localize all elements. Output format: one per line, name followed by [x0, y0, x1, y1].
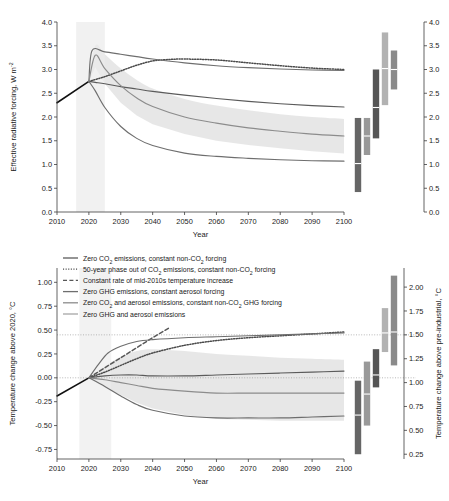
right-y-tick-label: 0.5 — [429, 184, 439, 193]
right-y-tick-label: 2.00 — [409, 283, 423, 292]
x-tick-label: 2100 — [336, 464, 352, 473]
right-y-tick-label: 0.0 — [429, 208, 439, 217]
right-y-tick-label: 2.0 — [429, 113, 439, 122]
right-y-tick-label: 1.5 — [429, 136, 439, 145]
x-tick-label: 2080 — [272, 464, 288, 473]
right-y-tick-label: 1.0 — [429, 160, 439, 169]
x-tick-label: 2070 — [240, 217, 256, 226]
right-y-tick-label: 0.50 — [409, 426, 423, 435]
x-tick-label: 2040 — [144, 217, 160, 226]
y-axis-title: Effective radiative forcing, W m-2 — [8, 62, 18, 171]
y-tick-label: 0.25 — [38, 350, 52, 359]
y-tick-label: 1.5 — [42, 136, 52, 145]
legend-label-zero-ghg-aerosol: Zero GHG and aerosol emissions — [83, 311, 186, 318]
x-tick-label: 2030 — [113, 217, 129, 226]
top-panel-radiative-forcing: 0.00.51.01.52.02.53.03.54.02010202020302… — [0, 0, 449, 250]
y-tick-label: 0.0 — [42, 208, 52, 217]
x-tick-label: 2100 — [336, 217, 352, 226]
y-tick-label: -0.50 — [35, 421, 52, 430]
y-tick-label: 1.00 — [38, 278, 52, 287]
bottom-panel-svg: -0.75-0.50-0.250.000.250.500.751.0020102… — [0, 250, 449, 501]
uncertainty-bar-zero-co2 — [355, 118, 361, 192]
uncertainty-bar-zero-ghg — [373, 349, 379, 387]
legend-label-zero-ghg: Zero GHG emissions, constant aerosol for… — [83, 288, 224, 296]
right-y-tick-label: 1.25 — [409, 354, 423, 363]
x-tick-label: 2050 — [176, 464, 192, 473]
y-tick-label: 0.50 — [38, 326, 52, 335]
x-tick-label: 2060 — [208, 217, 224, 226]
x-tick-label: 2090 — [304, 217, 320, 226]
right-y-tick-label: 0.75 — [409, 402, 423, 411]
right-y-tick-label: 4.0 — [429, 18, 439, 27]
legend-label-constant-rate: Constant rate of mid-2010s temperature i… — [83, 277, 233, 285]
x-tick-label: 2080 — [272, 217, 288, 226]
y-tick-label: 1.0 — [42, 160, 52, 169]
uncertainty-bar-zero-co2-aerosol — [382, 308, 388, 352]
right-y-axis-title: Temperature change above pre-industrial,… — [434, 287, 443, 439]
right-y-tick-label: 3.0 — [429, 65, 439, 74]
top-panel-svg: 0.00.51.01.52.02.53.03.54.02010202020302… — [0, 0, 449, 250]
x-tick-label: 2020 — [81, 464, 97, 473]
legend-label-zero-co2: Zero CO2 emissions, constant non-CO2 for… — [83, 255, 226, 265]
y-axis-title: Temperature change above 2020, °C — [8, 301, 17, 426]
legend-label-zero-co2-aerosol: Zero CO2 and aerosol emissions, constant… — [83, 299, 282, 309]
right-y-tick-label: 1.75 — [409, 307, 423, 316]
x-tick-label: 2050 — [176, 217, 192, 226]
y-tick-label: 0.75 — [38, 302, 52, 311]
x-axis-title: Year — [193, 477, 209, 486]
y-tick-label: 3.0 — [42, 65, 52, 74]
uncertainty-bar-zero-ghg — [373, 70, 379, 139]
right-y-tick-label: 3.5 — [429, 41, 439, 50]
uncertainty-bar-zero-ghg-aerosol — [391, 276, 397, 366]
uncertainty-band — [89, 349, 344, 421]
x-tick-label: 2020 — [81, 217, 97, 226]
right-y-tick-label: 2.5 — [429, 89, 439, 98]
uncertainty-bar-zero-co2 — [355, 381, 361, 455]
legend-label-phase-out-co2: 50-year phase out of CO2 emissions, cons… — [83, 266, 275, 276]
y-tick-label: 0.5 — [42, 184, 52, 193]
x-tick-label: 2040 — [144, 464, 160, 473]
x-axis-title: Year — [193, 230, 209, 239]
y-tick-label: -0.25 — [35, 397, 52, 406]
x-tick-label: 2010 — [49, 217, 65, 226]
right-y-tick-label: 0.25 — [409, 450, 423, 459]
x-tick-label: 2070 — [240, 464, 256, 473]
y-tick-label: 3.5 — [42, 41, 52, 50]
y-tick-label: -0.75 — [35, 445, 52, 454]
y-tick-label: 2.5 — [42, 89, 52, 98]
right-y-tick-label: 1.50 — [409, 330, 423, 339]
x-tick-label: 2090 — [304, 464, 320, 473]
y-tick-label: 2.0 — [42, 113, 52, 122]
y-tick-label: 0.00 — [38, 373, 52, 382]
bottom-panel-temperature: -0.75-0.50-0.250.000.250.500.751.0020102… — [0, 250, 449, 501]
x-tick-label: 2060 — [208, 464, 224, 473]
x-tick-label: 2010 — [49, 464, 65, 473]
uncertainty-band — [89, 45, 344, 154]
x-tick-label: 2030 — [113, 464, 129, 473]
figure-container: 0.00.51.01.52.02.53.03.54.02010202020302… — [0, 0, 449, 501]
y-tick-label: 4.0 — [42, 18, 52, 27]
right-y-tick-label: 1.00 — [409, 378, 423, 387]
branch-shading — [79, 268, 111, 459]
